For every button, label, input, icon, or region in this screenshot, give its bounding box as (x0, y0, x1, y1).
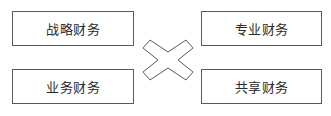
box-label: 业务财务 (46, 77, 100, 96)
box-label: 专业财务 (235, 19, 289, 38)
box-label: 共享财务 (235, 77, 289, 96)
box-shared-finance: 共享财务 (201, 69, 322, 104)
box-label: 战略财务 (46, 19, 100, 38)
box-business-finance: 业务财务 (12, 69, 134, 104)
box-strategic-finance: 战略财务 (12, 11, 134, 46)
box-professional-finance: 专业财务 (201, 11, 322, 46)
cross-x-icon (142, 38, 194, 82)
